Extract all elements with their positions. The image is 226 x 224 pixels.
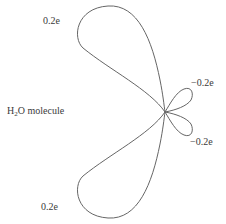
h2o-charge-distribution-diagram: 0.2e H2O molecule 0.2e −0.2e −0.2e [0, 0, 226, 224]
charge-label-upper-left: 0.2e [43, 15, 60, 27]
charge-label-lower-right: −0.2e [190, 136, 213, 148]
charge-label-upper-right: −0.2e [191, 77, 214, 89]
charge-label-lower-left: 0.2e [41, 201, 58, 213]
lower-negative-lobe [165, 112, 192, 136]
lower-positive-lobe [77, 112, 165, 218]
molecule-label: H2O molecule [7, 105, 64, 120]
molecule-label-suffix: O molecule [18, 105, 64, 116]
upper-positive-lobe [77, 6, 165, 112]
upper-negative-lobe [165, 88, 192, 112]
